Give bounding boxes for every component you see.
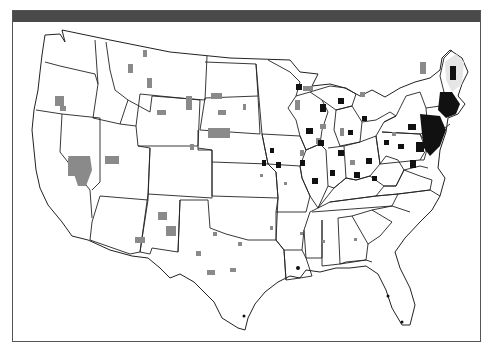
us-map [0, 0, 490, 351]
